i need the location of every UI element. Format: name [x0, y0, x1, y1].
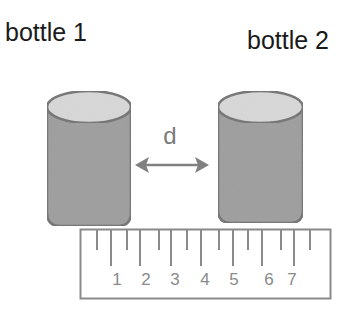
ruler-number-1: 1 [112, 270, 121, 289]
ruler-number-6: 6 [264, 270, 273, 289]
distance-label: d [163, 122, 176, 149]
ruler: 1 2 3 4 5 6 7 [81, 230, 331, 299]
ruler-number-7: 7 [287, 270, 296, 289]
bottle-1 [47, 91, 131, 226]
double-arrow-icon [135, 157, 209, 173]
diagram-canvas: d 1 2 3 4 5 [0, 0, 361, 313]
bottle-2 [218, 91, 303, 223]
ruler-number-3: 3 [170, 270, 179, 289]
ruler-number-5: 5 [229, 270, 238, 289]
ruler-number-2: 2 [141, 270, 150, 289]
ruler-number-4: 4 [200, 270, 209, 289]
